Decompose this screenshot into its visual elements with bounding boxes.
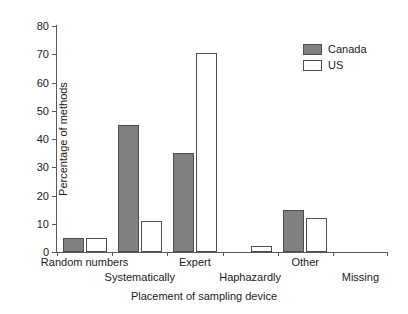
x-axis-title: Placement of sampling device — [0, 290, 408, 302]
legend-label-canada: Canada — [328, 44, 367, 55]
bar-chart-figure: Percentage of methods 01020304050607080 … — [0, 0, 408, 314]
x-axis-tick-mark — [387, 252, 388, 256]
y-axis-tick-label: 70 — [37, 49, 49, 60]
y-axis-tick-label: 30 — [37, 162, 49, 173]
y-axis-tick-label: 40 — [37, 134, 49, 145]
y-axis-tick-label: 10 — [37, 218, 49, 229]
x-axis-tick-mark — [223, 252, 224, 256]
y-axis-tick-mark — [52, 224, 57, 225]
y-axis-tick-mark — [52, 26, 57, 27]
x-axis-label-haphazardly: Haphazardly — [219, 271, 281, 283]
bar-canada-expert — [173, 153, 194, 252]
y-axis-tick-mark — [52, 54, 57, 55]
bar-us-expert — [196, 53, 217, 252]
y-axis-title-container: Percentage of methods — [0, 26, 18, 252]
y-axis-tick-label: 80 — [37, 21, 49, 32]
y-axis-tick-label: 20 — [37, 190, 49, 201]
bar-us-systematically — [141, 221, 162, 252]
x-axis-tick-mark — [278, 252, 279, 256]
y-axis-tick-label: 50 — [37, 105, 49, 116]
y-axis-tick-mark — [52, 139, 57, 140]
legend-swatch-canada-icon — [303, 44, 322, 55]
y-axis-tick-mark — [52, 111, 57, 112]
y-axis-tick-mark — [52, 83, 57, 84]
legend-label-us: US — [328, 60, 343, 71]
legend-swatch-us-icon — [303, 60, 322, 71]
bar-canada-random-numbers — [63, 238, 84, 252]
x-axis-label-random-numbers: Random numbers — [41, 256, 128, 268]
legend: Canada US — [303, 42, 367, 74]
legend-item-us: US — [303, 58, 367, 72]
x-axis-tick-mark — [333, 252, 334, 256]
bar-us-random-numbers — [86, 238, 107, 252]
x-axis-label-expert: Expert — [179, 256, 211, 268]
x-axis-line — [56, 252, 388, 253]
x-axis-label-other: Other — [291, 256, 319, 268]
x-axis-label-systematically: Systematically — [105, 271, 175, 283]
y-axis-tick-mark — [52, 196, 57, 197]
legend-item-canada: Canada — [303, 42, 367, 56]
bar-us-haphazardly — [251, 246, 272, 252]
bar-canada-systematically — [118, 125, 139, 252]
bar-us-other — [306, 218, 327, 252]
y-axis-tick-mark — [52, 167, 57, 168]
bar-canada-other — [283, 210, 304, 252]
y-axis-tick-label: 60 — [37, 77, 49, 88]
x-axis-label-missing: Missing — [342, 271, 379, 283]
x-axis-tick-mark — [167, 252, 168, 256]
